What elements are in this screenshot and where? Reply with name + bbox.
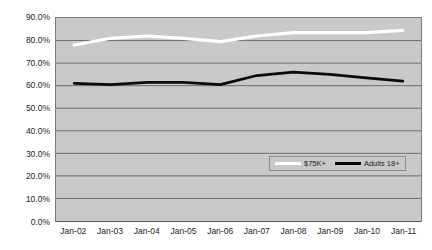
x-axis-tick-label: Jan-07 [244,226,270,236]
y-axis-tick-label: 60.0% [0,81,50,90]
y-axis-tick-label: 50.0% [0,104,50,113]
x-axis-tick-label: Jan-08 [281,226,307,236]
legend-label-high-income: $75K+ [304,160,326,168]
y-axis-tick-label: 80.0% [0,35,50,44]
black-line-swatch-icon [335,162,361,165]
y-axis-tick-label: 20.0% [0,172,50,181]
y-axis-tick-label: 90.0% [0,13,50,22]
x-axis-tick-label: Jan-03 [97,226,123,236]
y-axis-tick-label: 30.0% [0,149,50,158]
line-chart: 90.0%80.0%70.0%60.0%50.0%40.0%30.0%20.0%… [0,0,432,250]
x-axis-tick-label: Jan-09 [317,226,343,236]
chart-legend: $75K+ Adults 18+ [269,156,406,171]
y-axis-tick-label: 40.0% [0,126,50,135]
y-axis-tick-label: 10.0% [0,195,50,204]
legend-label-adults: Adults 18+ [364,160,400,168]
x-axis-tick-label: Jan-05 [170,226,196,236]
x-axis-tick-label: Jan-11 [391,226,416,236]
x-axis: Jan-02Jan-03Jan-04Jan-05Jan-06Jan-07Jan-… [55,226,422,242]
x-axis-tick-label: Jan-04 [134,226,160,236]
y-axis-tick-label: 0.0% [0,218,50,227]
plot-area [55,17,422,222]
x-axis-tick-label: Jan-06 [207,226,233,236]
y-axis-tick-label: 70.0% [0,58,50,67]
x-axis-tick-label: Jan-10 [354,226,380,236]
series-lines [56,18,421,221]
x-axis-tick-label: Jan-02 [60,226,86,236]
white-line-swatch-icon [275,162,301,165]
legend-entry-high-income: $75K+ [275,160,326,168]
legend-entry-adults: Adults 18+ [335,160,400,168]
